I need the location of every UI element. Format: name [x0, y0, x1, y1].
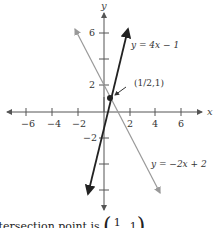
x-axis-label: x	[207, 106, 213, 117]
y-tick-label: −2	[83, 132, 97, 143]
caption: intersection point is (1, 1)	[0, 212, 145, 228]
caption-second-value: 1	[130, 220, 137, 228]
intersection-point	[107, 95, 113, 101]
close-paren: )	[137, 213, 146, 228]
x-tick-label: 6	[178, 118, 184, 129]
graph-canvas: −6 −4 −2 2 4 6 6 2 −2 y x (1/2,1) y = 4x…	[0, 0, 213, 228]
y-axis-label: y	[100, 0, 107, 11]
fraction-numerator: 1	[114, 216, 121, 228]
caption-text: intersection point is	[0, 220, 100, 228]
line-arrow-end	[159, 191, 160, 193]
y-tick-label: 6	[89, 27, 95, 38]
x-tick-label: −4	[47, 118, 61, 129]
point-label: (1/2,1)	[134, 78, 164, 88]
x-tick-label: −2	[72, 118, 86, 129]
open-paren: (	[103, 213, 112, 228]
x-tick-label: 4	[152, 118, 158, 129]
x-tick-label: 2	[127, 118, 133, 129]
equation-label-line2: y = −2x + 2	[150, 159, 207, 169]
y-tick-label: 2	[89, 79, 95, 90]
line-y-neg2x-plus-2	[75, 29, 159, 191]
x-tick-label: −6	[21, 118, 35, 129]
point-arrow-icon	[115, 87, 126, 95]
equation-label-line1: y = 4x − 1	[130, 40, 179, 50]
line-y-4x-minus-1-lower	[88, 112, 108, 194]
